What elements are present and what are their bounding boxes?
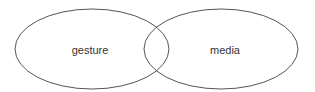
set-label-media: media bbox=[210, 44, 240, 56]
venn-diagram bbox=[0, 0, 315, 92]
set-label-gesture: gesture bbox=[72, 44, 109, 56]
